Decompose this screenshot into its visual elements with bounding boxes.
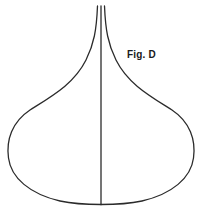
- figure-diagram: Fig. D: [0, 0, 202, 216]
- vessel-outline-svg: [0, 0, 202, 216]
- figure-caption-label: Fig. D: [127, 49, 156, 61]
- vessel-shape: [8, 6, 194, 205]
- outline-right-path: [101, 6, 194, 205]
- outline-left-path: [8, 6, 101, 205]
